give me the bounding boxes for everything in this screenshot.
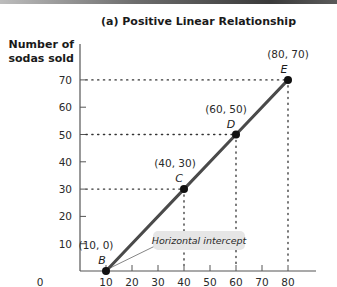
- point-c-letter: C: [175, 172, 183, 185]
- plot-area: 1020304050607001020304050607080Horizonta…: [0, 0, 337, 287]
- x-tick-label: 60: [229, 276, 242, 287]
- y-tick-label: 20: [59, 210, 72, 222]
- x-tick-label: 40: [177, 276, 190, 287]
- y-tick-label: 30: [59, 183, 72, 195]
- horizontal-intercept-label: Horizontal intercept: [152, 235, 248, 246]
- x-tick-label: 80: [281, 276, 294, 287]
- y-tick-label: 70: [59, 74, 72, 86]
- x-tick-label: 50: [203, 276, 216, 287]
- point-e-marker: [284, 76, 292, 84]
- point-c-coordinates: (40, 30): [154, 157, 196, 169]
- y-tick-label: 40: [59, 156, 72, 168]
- point-d-marker: [232, 131, 240, 139]
- y-tick-label: 10: [59, 238, 72, 250]
- point-b-letter: B: [98, 254, 106, 267]
- x-tick-label: 70: [255, 276, 268, 287]
- x-tick-label: 20: [125, 276, 138, 287]
- x-tick-label-origin: 0: [37, 276, 44, 287]
- x-tick-label: 30: [151, 276, 164, 287]
- point-b-coordinates: (10, 0): [79, 239, 114, 251]
- point-d-coordinates: (60, 50): [205, 103, 247, 115]
- y-tick-label: 60: [59, 101, 72, 113]
- point-c-marker: [180, 185, 188, 193]
- x-tick-label: 10: [99, 276, 112, 287]
- point-e-coordinates: (80, 70): [267, 48, 309, 60]
- y-tick-label: 50: [59, 129, 72, 141]
- point-e-letter: E: [281, 63, 288, 76]
- point-d-letter: D: [227, 118, 235, 131]
- point-b-marker: [102, 267, 110, 275]
